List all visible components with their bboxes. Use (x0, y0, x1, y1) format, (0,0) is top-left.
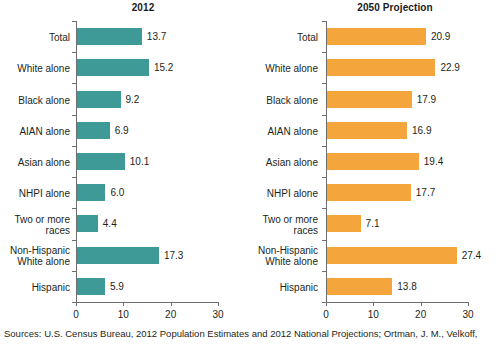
bar (77, 28, 142, 45)
x-axis-tick (373, 302, 374, 306)
category-label: Hispanic (4, 282, 70, 293)
bar-value-label: 17.3 (164, 250, 183, 261)
bar (327, 122, 407, 139)
y-axis-tick (322, 146, 326, 147)
x-axis-tick (421, 302, 422, 306)
category-label: AIAN alone (250, 126, 318, 137)
x-axis-tick (123, 302, 124, 306)
bar (327, 91, 412, 108)
x-axis-tick-label: 0 (323, 309, 329, 320)
x-axis-tick-label: 30 (462, 309, 473, 320)
x-axis-tick-label: 10 (118, 309, 129, 320)
bar (327, 184, 411, 201)
category-label: AIAN alone (4, 126, 70, 137)
y-axis-tick (322, 21, 326, 22)
bar-value-label: 13.7 (147, 31, 166, 42)
chart-panel-2050: 2050 Projection 010203020.922.917.916.91… (248, 0, 496, 320)
y-axis-tick (72, 146, 76, 147)
bar-value-label: 13.8 (397, 281, 416, 292)
bar-value-label: 7.1 (366, 218, 380, 229)
x-axis-tick (171, 302, 172, 306)
y-axis-tick (72, 21, 76, 22)
bar (77, 91, 121, 108)
category-label: Total (250, 32, 318, 43)
y-axis-tick (322, 240, 326, 241)
bar-value-label: 9.2 (126, 94, 140, 105)
y-axis-tick (322, 115, 326, 116)
y-axis-tick (72, 52, 76, 53)
y-axis-tick (322, 271, 326, 272)
bar (77, 278, 105, 295)
x-axis-line (326, 302, 469, 303)
y-axis-tick (72, 177, 76, 178)
bar-value-label: 20.9 (431, 31, 450, 42)
y-axis-tick (72, 83, 76, 84)
category-label: Asian alone (4, 157, 70, 168)
y-axis-tick (322, 208, 326, 209)
category-label: Black alone (4, 95, 70, 106)
bar (77, 153, 125, 170)
bar-value-label: 15.2 (154, 62, 173, 73)
y-axis-tick (72, 115, 76, 116)
y-axis-tick (72, 271, 76, 272)
y-axis-tick (322, 52, 326, 53)
figure: 2012 010203013.715.29.26.910.16.04.417.3… (0, 0, 496, 348)
bar-value-label: 19.4 (424, 156, 443, 167)
category-label: White alone (4, 63, 70, 74)
category-label: NHPI alone (250, 188, 318, 199)
bar-value-label: 6.9 (115, 125, 129, 136)
bar (77, 122, 110, 139)
category-label: White alone (250, 63, 318, 74)
bar-value-label: 4.4 (103, 218, 117, 229)
x-axis-tick-label: 30 (212, 309, 223, 320)
bar (327, 28, 426, 45)
category-label: Two or more races (4, 214, 70, 236)
category-label: Black alone (250, 95, 318, 106)
bar-value-label: 6.0 (110, 187, 124, 198)
bar (77, 215, 98, 232)
category-label: NHPI alone (4, 188, 70, 199)
sources-note: Sources: U.S. Census Bureau, 2012 Popula… (4, 328, 494, 340)
bar-value-label: 16.9 (412, 125, 431, 136)
category-label: Asian alone (250, 157, 318, 168)
x-axis-tick-label: 20 (165, 309, 176, 320)
bar (327, 153, 419, 170)
x-axis-tick (218, 302, 219, 306)
bar (327, 278, 392, 295)
bar (327, 247, 457, 264)
bar (77, 184, 105, 201)
x-axis-tick-label: 20 (415, 309, 426, 320)
chart-panel-2012: 2012 010203013.715.29.26.910.16.04.417.3… (0, 0, 248, 320)
plot-area-2050: 010203020.922.917.916.919.417.77.127.413… (326, 21, 468, 302)
x-axis-tick-label: 0 (73, 309, 79, 320)
bar (77, 247, 159, 264)
category-label: Non-Hispanic White alone (4, 245, 70, 267)
x-axis-tick (468, 302, 469, 306)
bar (327, 59, 435, 76)
bar-value-label: 17.9 (417, 94, 436, 105)
category-label: Hispanic (250, 282, 318, 293)
bar-value-label: 22.9 (440, 62, 459, 73)
y-axis-tick (72, 240, 76, 241)
category-label: Total (4, 32, 70, 43)
bar-value-label: 10.1 (130, 156, 149, 167)
bar (327, 215, 361, 232)
bar-value-label: 27.4 (462, 250, 481, 261)
bar-value-label: 17.7 (416, 187, 435, 198)
y-axis-tick (322, 177, 326, 178)
panel-title-2012: 2012 (19, 2, 267, 13)
x-axis-tick (326, 302, 327, 306)
panel-title-2050: 2050 Projection (271, 2, 496, 13)
category-label: Two or more races (250, 214, 318, 236)
bar (77, 59, 149, 76)
x-axis-line (76, 302, 219, 303)
y-axis-tick (72, 208, 76, 209)
category-label: Non-Hispanic White alone (250, 245, 318, 267)
x-axis-tick (76, 302, 77, 306)
plot-area-2012: 010203013.715.29.26.910.16.04.417.35.9 (76, 21, 218, 302)
x-axis-tick-label: 10 (368, 309, 379, 320)
y-axis-tick (322, 83, 326, 84)
bar-value-label: 5.9 (110, 281, 124, 292)
